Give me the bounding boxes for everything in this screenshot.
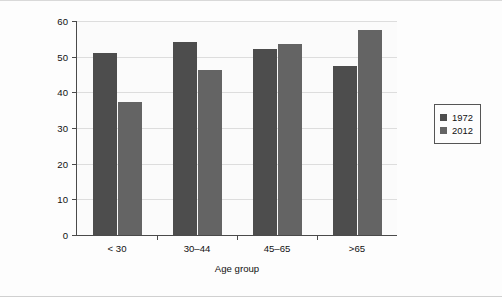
y-axis-tick-label: 40 bbox=[57, 87, 68, 98]
bar-1972-< 30 bbox=[93, 53, 117, 235]
y-axis-tick bbox=[72, 128, 77, 129]
x-axis-tick-label: 30–44 bbox=[184, 243, 211, 254]
bar-1972-30–44 bbox=[173, 42, 197, 235]
y-axis-tick-label: 30 bbox=[57, 123, 68, 134]
legend-swatch-icon bbox=[440, 114, 447, 121]
x-axis-tick bbox=[237, 235, 238, 240]
bar-1972->65 bbox=[333, 66, 357, 235]
y-axis-tick bbox=[72, 92, 77, 93]
legend-item: 1972 bbox=[440, 112, 473, 123]
y-axis-title: Average % correct on political knowledge… bbox=[14, 19, 60, 234]
y-axis-tick-label: 20 bbox=[57, 158, 68, 169]
y-axis-tick-label: 50 bbox=[57, 51, 68, 62]
y-axis-tick bbox=[72, 235, 77, 236]
chart-figure: Average % correct on political knowledge… bbox=[0, 0, 502, 297]
x-axis-tick-label: < 30 bbox=[108, 243, 127, 254]
y-axis-tick bbox=[72, 57, 77, 58]
x-axis-tick-label: >65 bbox=[349, 243, 365, 254]
x-axis-title: Age group bbox=[77, 263, 397, 274]
y-axis-tick-label: 10 bbox=[57, 194, 68, 205]
gridline bbox=[77, 57, 397, 58]
y-axis-tick-label: 60 bbox=[57, 16, 68, 27]
legend-label: 2012 bbox=[452, 125, 473, 136]
y-axis-tick bbox=[72, 164, 77, 165]
y-axis-tick bbox=[72, 199, 77, 200]
bar-1972-45–65 bbox=[253, 49, 277, 235]
bar-2012-< 30 bbox=[118, 102, 142, 235]
gridline bbox=[77, 21, 397, 22]
x-axis-tick bbox=[317, 235, 318, 240]
legend-item: 2012 bbox=[440, 125, 473, 136]
legend: 1972 2012 bbox=[434, 104, 481, 144]
y-axis-tick bbox=[72, 21, 77, 22]
bar-2012-45–65 bbox=[278, 44, 302, 235]
x-axis-tick-label: 45–65 bbox=[264, 243, 291, 254]
legend-label: 1972 bbox=[452, 112, 473, 123]
bar-2012->65 bbox=[358, 30, 382, 235]
bar-2012-30–44 bbox=[198, 70, 222, 235]
plot-area: 0102030405060 < 3030–4445–65>65 bbox=[77, 21, 397, 235]
x-axis-tick bbox=[157, 235, 158, 240]
legend-swatch-icon bbox=[440, 127, 447, 134]
y-axis-tick-label: 0 bbox=[63, 230, 68, 241]
